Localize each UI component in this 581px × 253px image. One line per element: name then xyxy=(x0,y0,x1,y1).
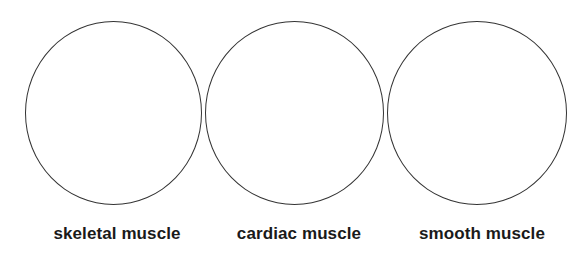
muscle-types-diagram: skeletal muscle cardiac muscle smooth mu… xyxy=(0,0,581,253)
smooth-muscle-circle xyxy=(387,21,567,205)
cardiac-muscle-circle xyxy=(205,21,384,205)
smooth-muscle-label: smooth muscle xyxy=(382,223,581,245)
skeletal-muscle-label: skeletal muscle xyxy=(17,223,217,245)
cardiac-muscle-label: cardiac muscle xyxy=(199,223,399,245)
skeletal-muscle-circle xyxy=(25,21,202,205)
